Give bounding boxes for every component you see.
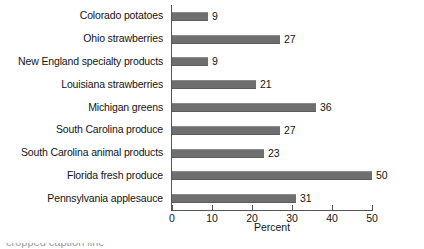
- x-tick-mark: [172, 205, 173, 210]
- x-tick-mark: [372, 205, 373, 210]
- x-tick-mark: [212, 205, 213, 210]
- bar-chart-figure: Colorado potatoesOhio strawberriesNew En…: [0, 0, 424, 249]
- bar-value-label: 23: [268, 148, 280, 158]
- category-label: Pennsylvania applesauce: [47, 193, 163, 204]
- category-label: Louisiana strawberries: [61, 79, 163, 90]
- x-axis-line: [171, 210, 373, 211]
- bar: [172, 194, 296, 203]
- bar: [172, 12, 208, 21]
- bar: [172, 126, 280, 135]
- category-label: Florida fresh produce: [67, 170, 163, 181]
- bar: [172, 57, 208, 66]
- x-tick-mark: [292, 205, 293, 210]
- plot-area: 927921362723503101020304050: [172, 5, 372, 210]
- bar-value-label: 27: [284, 34, 296, 44]
- category-label: South Carolina animal products: [21, 147, 163, 158]
- category-label: Colorado potatoes: [80, 10, 163, 21]
- bar-value-label: 21: [260, 79, 272, 89]
- category-axis-labels: Colorado potatoesOhio strawberriesNew En…: [0, 5, 168, 210]
- bar-value-label: 31: [300, 193, 312, 203]
- caption-text: cropped caption line: [6, 243, 104, 248]
- bar: [172, 80, 256, 89]
- bar: [172, 171, 372, 180]
- bar-value-label: 9: [212, 11, 218, 21]
- category-label: New England specialty products: [18, 56, 163, 67]
- bar: [172, 149, 264, 158]
- bar-value-label: 50: [376, 170, 388, 180]
- category-label: Ohio strawberries: [83, 33, 163, 44]
- category-label: Michigan greens: [88, 102, 163, 113]
- bar: [172, 103, 316, 112]
- bar-value-label: 36: [320, 102, 332, 112]
- bar-value-label: 27: [284, 125, 296, 135]
- x-axis-title: Percent: [172, 221, 372, 233]
- cropped-caption-strip: cropped caption line: [0, 243, 424, 249]
- x-tick-mark: [332, 205, 333, 210]
- category-label: South Carolina produce: [56, 124, 163, 135]
- x-tick-mark: [252, 205, 253, 210]
- bar-value-label: 9: [212, 56, 218, 66]
- bar: [172, 35, 280, 44]
